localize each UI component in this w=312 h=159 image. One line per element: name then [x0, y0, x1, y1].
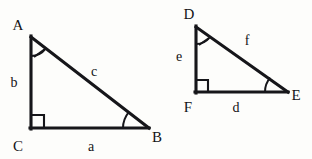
angle-arc-b — [123, 112, 129, 128]
side-label-d: d — [233, 100, 240, 115]
triangle-abc: A C B b c a — [11, 17, 163, 154]
side-label-a: a — [88, 139, 95, 154]
side-label-f: f — [245, 33, 250, 48]
vertex-label-e: E — [291, 87, 300, 103]
right-angle-marker-f — [196, 80, 208, 92]
vertex-label-d: D — [184, 6, 195, 22]
angle-tick-a — [34, 49, 45, 57]
side-label-b: b — [11, 75, 18, 90]
vertex-label-c: C — [13, 138, 23, 154]
vertex-label-b: B — [152, 129, 162, 145]
right-angle-marker-c — [31, 115, 44, 128]
side-label-e: e — [176, 49, 182, 64]
segment-de — [196, 27, 288, 92]
similar-triangles-figure: A C B b c a D F E — [0, 0, 312, 159]
vertex-label-a: A — [13, 17, 24, 33]
angle-tick-d — [199, 38, 209, 45]
side-label-c: c — [91, 64, 97, 79]
geometry-diagram-canvas: A C B b c a D F E — [0, 0, 312, 159]
segment-ab — [31, 37, 149, 128]
triangle-def: D F E e f d — [176, 6, 301, 115]
angle-arc-e — [265, 78, 270, 92]
vertex-label-f: F — [184, 99, 192, 115]
